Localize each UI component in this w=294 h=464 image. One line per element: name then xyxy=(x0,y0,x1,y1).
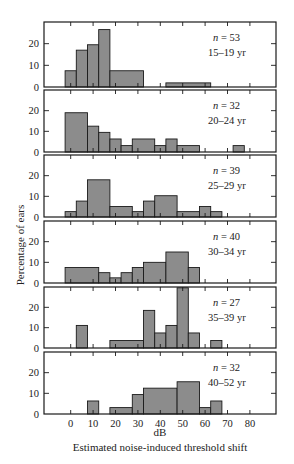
histogram-panel: 01020n = 5315–19 yr xyxy=(29,22,277,93)
histogram-bar xyxy=(110,71,144,87)
y-tick-label: 10 xyxy=(29,257,40,268)
y-tick-label: 20 xyxy=(29,170,40,181)
histogram-bar xyxy=(144,262,166,283)
histogram-bar xyxy=(76,50,87,87)
histogram-bar xyxy=(99,132,110,152)
y-tick-label: 0 xyxy=(34,278,39,289)
histogram-panel: 01020n = 2735–39 yr xyxy=(29,287,277,354)
panel-age-group: 40–52 yr xyxy=(208,377,246,388)
y-tick-label: 10 xyxy=(29,60,40,71)
y-tick-label: 20 xyxy=(29,38,40,49)
x-axis-title: Estimated noise-induced threshold shift xyxy=(73,441,247,453)
histogram-panel: 01020n = 3220–24 yr xyxy=(29,90,277,158)
y-tick-label: 20 xyxy=(29,105,40,116)
y-tick-label: 20 xyxy=(29,367,40,378)
panel-sample-size: n = 40 xyxy=(213,231,240,242)
histogram-bar xyxy=(121,146,132,152)
histogram-bar xyxy=(211,212,222,217)
y-tick-label: 0 xyxy=(34,147,39,158)
histogram-bar xyxy=(188,268,199,284)
histogram-bar xyxy=(166,139,177,152)
histogram-bar xyxy=(144,310,155,348)
y-tick-label: 0 xyxy=(34,82,39,93)
histogram-bar xyxy=(76,325,87,348)
y-tick-label: 10 xyxy=(29,191,40,202)
y-tick-label: 10 xyxy=(29,388,40,399)
histogram-bar xyxy=(177,288,188,348)
panel-age-group: 35–39 yr xyxy=(208,312,246,323)
y-tick-label: 10 xyxy=(29,126,40,137)
histogram-bar xyxy=(177,382,199,414)
x-axis-unit-label: dB xyxy=(154,426,167,438)
histogram-bar xyxy=(76,201,87,217)
y-tick-label: 20 xyxy=(29,236,40,247)
panel-sample-size: n = 32 xyxy=(213,100,240,111)
x-tick-label: 60 xyxy=(200,418,211,429)
panel-age-group: 15–19 yr xyxy=(208,47,246,58)
histogram-bar xyxy=(110,408,132,414)
panel-sample-size: n = 27 xyxy=(213,297,240,308)
histogram-bar xyxy=(65,113,87,152)
panel-age-group: 30–34 yr xyxy=(208,246,246,257)
x-tick-label: 10 xyxy=(88,418,99,429)
histogram-bar xyxy=(233,146,244,152)
histogram-bar xyxy=(110,206,132,217)
histogram-bar xyxy=(155,196,177,217)
x-tick-label: 50 xyxy=(177,418,188,429)
y-tick-label: 0 xyxy=(34,409,39,420)
y-tick-label: 20 xyxy=(29,302,40,313)
histogram-panels-chart: 01020n = 5315–19 yr01020n = 3220–24 yr01… xyxy=(0,0,294,464)
histogram-bar xyxy=(177,146,199,152)
panel-sample-size: n = 32 xyxy=(213,362,240,373)
x-tick-label: 20 xyxy=(110,418,121,429)
panel-age-group: 25–29 yr xyxy=(208,180,246,191)
histogram-bar xyxy=(110,340,144,348)
histogram-panel: 01020n = 3240–52 yr xyxy=(29,352,277,420)
panel-sample-size: n = 39 xyxy=(213,165,240,176)
histogram-bar xyxy=(144,201,155,217)
histogram-bar xyxy=(166,252,188,283)
histogram-bar xyxy=(99,30,110,87)
histogram-bar xyxy=(99,273,110,283)
x-tick-label: 0 xyxy=(68,418,73,429)
histogram-bar xyxy=(211,340,222,348)
histogram-bar xyxy=(166,83,211,87)
histogram-bar xyxy=(88,180,110,217)
x-tick-label: 30 xyxy=(133,418,144,429)
histogram-panel: 01020n = 3925–29 yr xyxy=(29,155,277,223)
histogram-bar xyxy=(65,268,99,284)
y-axis-title: Percentage of ears xyxy=(14,205,26,286)
x-tick-label: 70 xyxy=(222,418,233,429)
histogram-bar xyxy=(188,333,199,348)
y-tick-label: 0 xyxy=(34,343,39,354)
panels-group: 01020n = 5315–19 yr01020n = 3220–24 yr01… xyxy=(29,22,277,420)
histogram-bar xyxy=(177,212,199,217)
x-tick-label: 80 xyxy=(245,418,256,429)
y-tick-label: 10 xyxy=(29,322,40,333)
histogram-bar xyxy=(211,401,222,414)
histogram-bar xyxy=(121,273,132,283)
histogram-bar xyxy=(88,45,99,87)
histogram-bar xyxy=(166,325,177,348)
panel-sample-size: n = 53 xyxy=(213,32,240,43)
y-tick-label: 0 xyxy=(34,212,39,223)
histogram-panel: 01020n = 4030–34 yr xyxy=(29,221,277,289)
histogram-bar xyxy=(132,139,154,152)
panel-age-group: 20–24 yr xyxy=(208,115,246,126)
